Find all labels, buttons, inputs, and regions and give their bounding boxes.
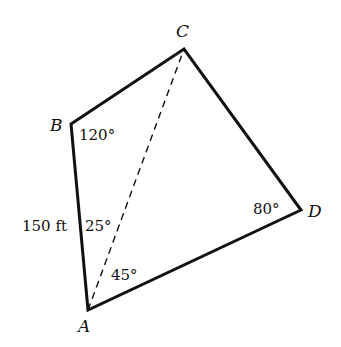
vertex-label-a: A [76,316,90,336]
side-label-ab: 150 ft [22,217,67,235]
quadrilateral-abcd [71,49,301,310]
angle-label-b: 120° [79,126,115,144]
vertex-label-d: D [307,201,322,221]
angle-label-d: 80° [253,200,280,218]
vertex-label-c: C [176,21,189,41]
angle-label-a-upper: 25° [85,217,112,235]
quadrilateral-diagram: C B A D 120° 80° 25° 45° 150 ft [0,0,341,347]
vertex-label-b: B [49,115,63,135]
angle-label-a-lower: 45° [111,266,138,284]
